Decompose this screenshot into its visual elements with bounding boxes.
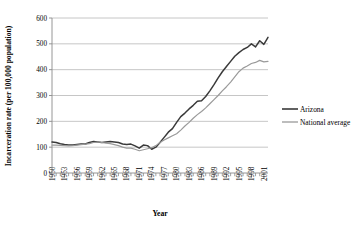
x-axis-title: Year [152,209,168,218]
y-axis-tick-label: 100 [36,144,47,152]
y-axis-tick-label: 600 [36,15,47,23]
x-axis-tick-label: 1989 [211,166,219,181]
y-axis-tick-label: 0 [43,170,47,178]
x-axis-tick-label: 1977 [161,166,169,181]
x-axis-tick-label: 1995 [236,166,244,181]
x-axis-tick-label: 2001 [261,166,269,181]
x-axis-tick-label: 1959 [86,166,94,181]
x-axis-tick-label: 1950 [49,166,57,181]
legend-label-arizona: Arizona [300,105,325,114]
x-axis-tick-label: 1998 [248,166,256,181]
x-axis-tick-label: 1968 [123,166,131,181]
x-axis-tick-label: 1965 [111,166,119,181]
chart-background [0,0,360,230]
chart-container: 0100200300400500600 19501953195619591962… [0,0,360,230]
x-axis-tick-label: 1956 [74,166,82,181]
x-axis-tick-label: 1983 [186,166,194,181]
x-axis-tick-label: 1986 [198,166,206,181]
x-axis-tick-label: 1953 [61,166,69,181]
x-axis-tick-label: 1971 [136,166,144,181]
x-axis-tick-label: 1980 [173,166,181,181]
legend-label-national-average: National average [300,118,351,127]
y-axis-title: Incarceration rate (per 100,000 populati… [4,25,13,166]
x-axis-tick-label: 1992 [223,166,231,181]
y-axis-tick-label: 400 [36,66,47,74]
y-axis-tick-label: 300 [36,92,47,100]
x-axis-tick-label: 1962 [99,166,107,181]
x-axis-tick-label: 1974 [148,166,156,181]
y-axis-tick-label: 200 [36,118,47,126]
y-axis-tick-label: 500 [36,40,47,48]
incarceration-rate-line-chart: 0100200300400500600 19501953195619591962… [0,0,360,230]
